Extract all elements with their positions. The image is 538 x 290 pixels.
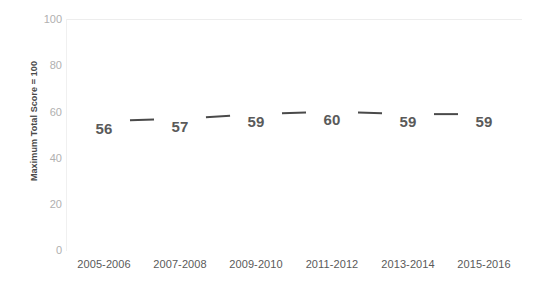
line-segment bbox=[358, 113, 382, 114]
data-label: 56 bbox=[95, 120, 112, 137]
data-label: 59 bbox=[247, 113, 264, 130]
x-tick-label: 2007-2008 bbox=[153, 258, 207, 270]
line-segment bbox=[282, 113, 306, 114]
y-tick-label: 0 bbox=[38, 245, 62, 256]
data-label: 60 bbox=[323, 110, 340, 127]
plot-area: 565759605959 bbox=[66, 19, 522, 251]
y-tick-label: 100 bbox=[38, 14, 62, 25]
x-tick-label: 2015-2016 bbox=[457, 258, 511, 270]
y-tick-label: 20 bbox=[38, 199, 62, 210]
data-label: 59 bbox=[475, 113, 492, 130]
x-tick-label: 2005-2006 bbox=[77, 258, 131, 270]
series-line bbox=[66, 19, 522, 251]
data-label: 59 bbox=[399, 113, 416, 130]
x-tick-label: 2011-2012 bbox=[306, 258, 359, 270]
y-tick-label: 40 bbox=[38, 153, 62, 164]
x-tick-label: 2009-2010 bbox=[229, 258, 283, 270]
y-tick-label: 60 bbox=[38, 107, 62, 118]
y-tick-label: 80 bbox=[38, 60, 62, 71]
x-tick-label: 2013-2014 bbox=[381, 258, 435, 270]
x-axis-tick-labels: 2005-2006 2007-2008 2009-2010 2011-2012 … bbox=[66, 258, 522, 274]
line-segment bbox=[130, 120, 154, 121]
line-chart: Maximum Total Score = 100 100 80 60 40 2… bbox=[0, 0, 538, 290]
y-axis-tick-labels: 100 80 60 40 20 0 bbox=[38, 0, 62, 290]
line-segment bbox=[206, 116, 230, 117]
data-label: 57 bbox=[171, 117, 188, 134]
